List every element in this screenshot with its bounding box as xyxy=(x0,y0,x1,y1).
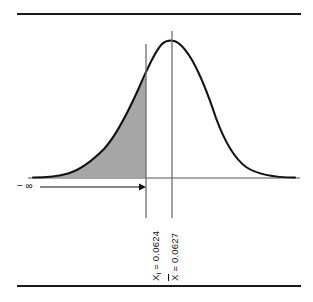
xi-equals: = xyxy=(150,264,161,270)
figure-container: − ∞ Xi = 0.0624 X = 0.0627 xyxy=(0,0,313,302)
xi-value: 0.0624 xyxy=(150,231,161,261)
xi-subscript: i xyxy=(154,273,163,275)
xbar-value: 0.0627 xyxy=(169,233,180,263)
xbar-symbol: X xyxy=(169,274,180,281)
normal-curve xyxy=(33,41,295,178)
negative-infinity-arrow-head xyxy=(139,184,146,191)
negative-infinity-label: − ∞ xyxy=(17,180,33,191)
xbar-equals: = xyxy=(169,266,180,272)
xi-value-label: Xi = 0.0624 xyxy=(150,231,163,281)
xi-symbol: X xyxy=(150,274,161,281)
xbar-value-label: X = 0.0627 xyxy=(169,233,180,281)
